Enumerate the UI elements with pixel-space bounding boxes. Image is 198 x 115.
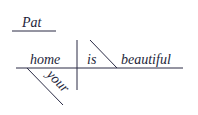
subject-word: home bbox=[30, 52, 60, 67]
verb-word: is bbox=[87, 52, 97, 67]
independent-word: Pat bbox=[21, 15, 43, 30]
sentence-diagram: Pat home is beautiful your bbox=[0, 0, 198, 115]
modifier-word: your bbox=[42, 65, 72, 96]
complement-word: beautiful bbox=[121, 52, 171, 67]
